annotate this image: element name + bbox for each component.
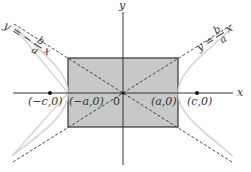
origin-label: 0 [113, 96, 120, 107]
neg-a-label: (−a,0) [69, 96, 104, 107]
left-eq-lhs: y = [1, 19, 24, 40]
pos-a-label: (a,0) [151, 96, 177, 107]
y-axis-label: y [119, 0, 125, 11]
hyperbola-figure: y x 0 (−c,0) (−a,0) (a,0) (c,0) y = − b … [0, 0, 251, 172]
left-eq-denominator: a [30, 45, 40, 57]
x-axis-label: x [237, 87, 243, 98]
pos-c-label: (c,0) [187, 96, 212, 107]
origin-point [121, 91, 124, 94]
neg-c-label: (−c,0) [28, 96, 62, 107]
